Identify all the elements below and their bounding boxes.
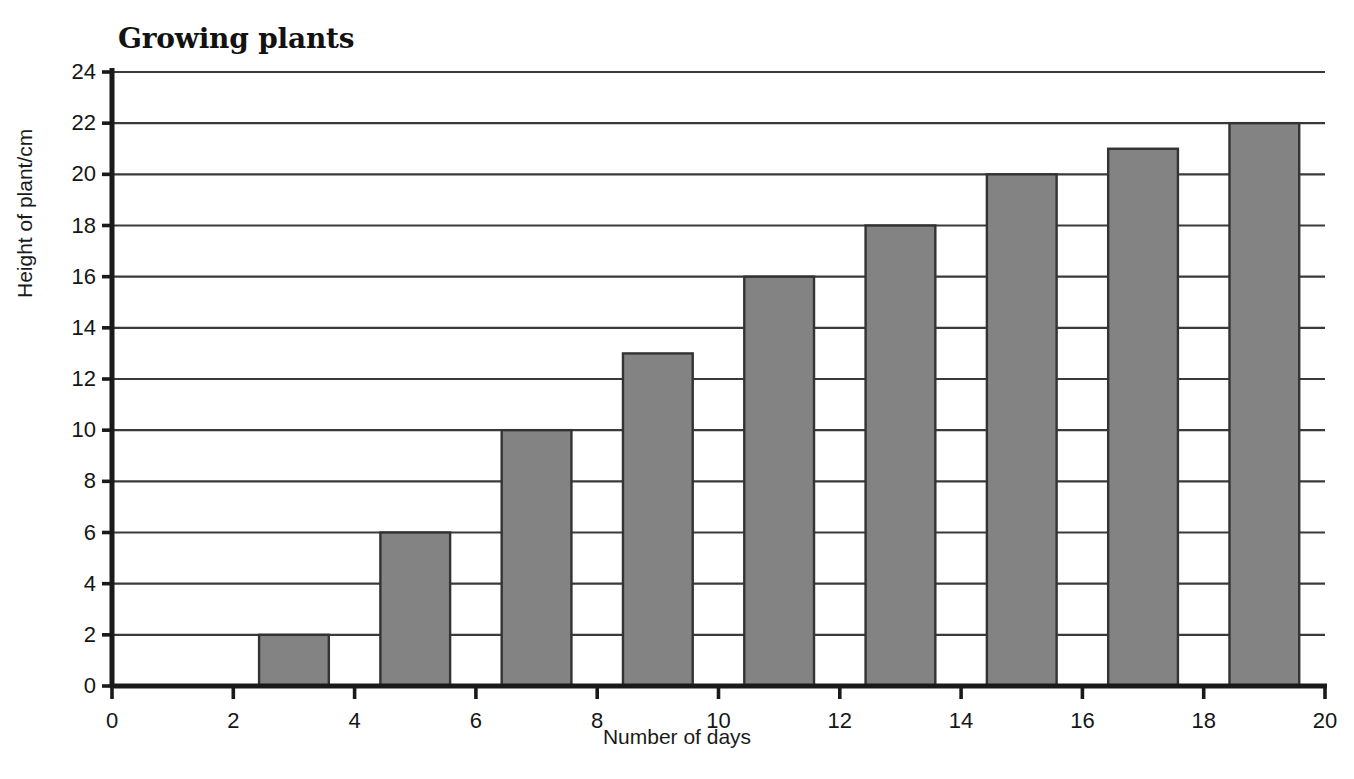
y-axis-tick-label: 4 xyxy=(50,571,96,597)
x-axis-tick-label: 14 xyxy=(931,708,991,734)
x-axis-tick-label: 0 xyxy=(82,708,142,734)
x-axis-tick-label: 16 xyxy=(1052,708,1112,734)
bar xyxy=(259,635,329,686)
y-axis-tick-label: 18 xyxy=(50,213,96,239)
bar xyxy=(866,226,936,687)
y-axis-tick-label: 12 xyxy=(50,366,96,392)
bar xyxy=(623,353,693,686)
x-axis-tick-label: 2 xyxy=(203,708,263,734)
y-axis-tick-label: 16 xyxy=(50,264,96,290)
bar xyxy=(502,430,572,686)
y-axis-tick-label: 0 xyxy=(50,673,96,699)
plot-area xyxy=(0,0,1354,779)
y-axis-tick-label: 22 xyxy=(50,110,96,136)
bar-series xyxy=(259,123,1299,686)
x-axis-tick-label: 4 xyxy=(325,708,385,734)
x-axis-tick-label: 12 xyxy=(810,708,870,734)
bar xyxy=(744,277,814,686)
x-axis-tick-label: 8 xyxy=(567,708,627,734)
bar xyxy=(1108,149,1178,686)
y-axis-tick-label: 2 xyxy=(50,622,96,648)
x-axis-tick-label: 10 xyxy=(689,708,749,734)
x-axis-tick-label: 20 xyxy=(1295,708,1354,734)
chart-title: Growing plants xyxy=(118,22,354,55)
y-axis-tick-label: 10 xyxy=(50,417,96,443)
y-axis-tick-label: 20 xyxy=(50,161,96,187)
bar xyxy=(987,174,1057,686)
x-axis-tick-label: 6 xyxy=(446,708,506,734)
y-axis-tick-label: 24 xyxy=(50,59,96,85)
y-axis-title: Height of plant/cm xyxy=(13,18,37,298)
bar xyxy=(380,533,450,687)
bar-chart: Growing plants Height of plant/cm Number… xyxy=(0,0,1354,779)
y-axis-tick-label: 8 xyxy=(50,468,96,494)
y-axis-tick-label: 14 xyxy=(50,315,96,341)
y-axis-tick-label: 6 xyxy=(50,520,96,546)
bar xyxy=(1229,123,1299,686)
x-axis-tick-label: 18 xyxy=(1174,708,1234,734)
